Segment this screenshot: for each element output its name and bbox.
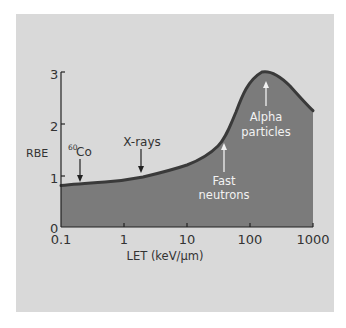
- y-tick-label-3: 3: [50, 67, 58, 82]
- area-fill: [61, 72, 313, 227]
- x-tick-label-100: 100: [238, 232, 263, 247]
- xrays-arrow-icon: [138, 149, 144, 173]
- x-tick-label-10: 10: [179, 232, 196, 247]
- x-tick-label-1: 1: [120, 232, 128, 247]
- y-tick-label-2: 2: [50, 119, 58, 134]
- neutrons-label: neutrons: [199, 188, 250, 202]
- co60-arrow-icon: [77, 159, 83, 182]
- alpha-label: Alpha: [250, 110, 283, 124]
- x-tick-label-1000: 1000: [296, 232, 329, 247]
- xrays-label: X-rays: [123, 135, 161, 149]
- fast-label: Fast: [212, 174, 236, 188]
- particles-label: particles: [241, 125, 290, 139]
- x-axis-label: LET (keV/µm): [127, 249, 204, 263]
- y-axis-label: RBE: [26, 147, 48, 160]
- x-tick-label-0.1: 0.1: [51, 232, 72, 247]
- y-tick-label-1: 1: [50, 171, 58, 186]
- rbe-let-chart: 3 2 1 0 RBE 0.1 1 10 100 1000 LET (keV/µ…: [0, 0, 346, 328]
- co60-label: Co: [76, 145, 92, 159]
